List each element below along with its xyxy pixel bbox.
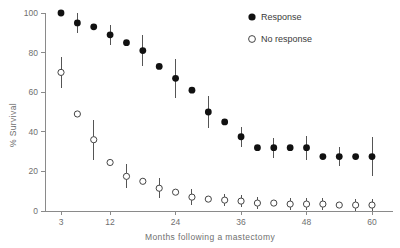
data-point (172, 75, 179, 82)
data-point (107, 31, 114, 38)
data-point (270, 144, 277, 151)
data-point (91, 137, 97, 143)
data-point (336, 153, 343, 160)
data-point (90, 23, 97, 30)
legend-label-response: Response (261, 12, 302, 22)
data-point (369, 202, 375, 208)
data-point (205, 109, 212, 116)
data-point (254, 144, 261, 151)
y-tick-label: 20 (29, 166, 39, 176)
y-tick-label: 80 (29, 48, 39, 58)
data-point (74, 20, 81, 27)
y-tick-label: 100 (24, 8, 38, 18)
x-tick-label: 60 (367, 217, 377, 227)
data-point (221, 119, 228, 126)
data-series-group (58, 10, 376, 211)
data-point (238, 133, 245, 140)
data-point (172, 189, 178, 195)
y-axis: 020406080100 (24, 8, 45, 216)
y-axis-title: % Survival (8, 103, 18, 147)
legend-marker-response (248, 13, 255, 20)
series-no-response (58, 57, 375, 211)
data-point (303, 201, 309, 207)
data-point (320, 201, 326, 207)
y-tick-label: 40 (29, 127, 39, 137)
data-point (123, 173, 129, 179)
data-point (319, 153, 326, 160)
data-point (107, 159, 113, 165)
data-point (140, 178, 146, 184)
x-tick-label: 3 (59, 217, 64, 227)
data-point (254, 200, 260, 206)
x-axis: 31224364860 (45, 211, 393, 227)
data-point (74, 111, 80, 117)
x-axis-title: Months following a mastectomy (145, 232, 276, 242)
data-point (336, 202, 342, 208)
data-point (352, 153, 359, 160)
data-point (189, 194, 195, 200)
data-point (287, 201, 293, 207)
legend-marker-no-response (249, 36, 256, 43)
data-point (369, 153, 376, 160)
legend-label-no-response: No response (261, 34, 312, 44)
x-tick-label: 12 (105, 217, 115, 227)
data-point (303, 144, 310, 151)
x-tick-label: 48 (302, 217, 312, 227)
data-point (139, 47, 146, 54)
data-point (189, 87, 196, 94)
data-point (287, 144, 294, 151)
data-point (353, 202, 359, 208)
data-point (58, 69, 64, 75)
y-tick-label: 0 (33, 206, 38, 216)
data-point (58, 10, 65, 17)
survival-scatter-chart: 020406080100 31224364860 % Survival Mont… (0, 0, 400, 248)
x-tick-label: 36 (236, 217, 246, 227)
data-point (238, 198, 244, 204)
data-point (222, 197, 228, 203)
y-tick-label: 60 (29, 87, 39, 97)
survival-chart-figure: 020406080100 31224364860 % Survival Mont… (0, 0, 400, 248)
series-response (58, 10, 376, 177)
data-point (156, 185, 162, 191)
data-point (156, 63, 163, 70)
x-tick-label: 24 (171, 217, 181, 227)
data-point (205, 196, 211, 202)
data-point (123, 39, 130, 46)
chart-legend: ResponseNo response (248, 12, 312, 44)
data-point (271, 200, 277, 206)
